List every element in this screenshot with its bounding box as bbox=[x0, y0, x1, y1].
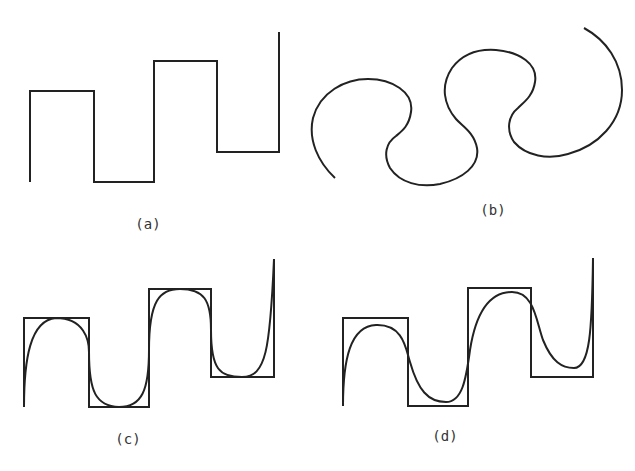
panel-b-label: (b) bbox=[480, 202, 505, 218]
panel-d-label: (d) bbox=[432, 428, 457, 444]
panel-d-square-wave bbox=[343, 258, 593, 406]
panel-a-label: (a) bbox=[135, 216, 160, 232]
panel-c-label: (c) bbox=[115, 431, 140, 447]
panel-b-smooth-curve bbox=[312, 28, 622, 185]
panel-a-square-wave bbox=[30, 32, 279, 182]
figure-canvas bbox=[0, 0, 635, 471]
